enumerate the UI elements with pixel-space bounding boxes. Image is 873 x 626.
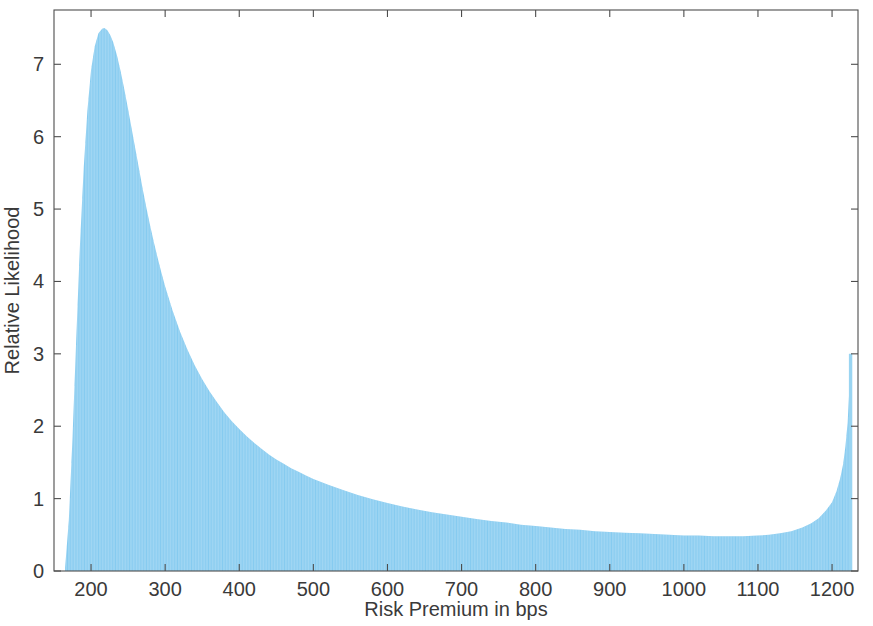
x-tick-label: 200 bbox=[74, 578, 107, 600]
x-tick-label: 300 bbox=[148, 578, 181, 600]
y-tick-label: 6 bbox=[33, 126, 44, 148]
y-tick-label: 7 bbox=[33, 53, 44, 75]
x-tick-label: 400 bbox=[223, 578, 256, 600]
y-tick-label: 4 bbox=[33, 270, 44, 292]
y-tick-label: 5 bbox=[33, 198, 44, 220]
y-tick-label: 1 bbox=[33, 488, 44, 510]
x-tick-label: 800 bbox=[519, 578, 552, 600]
x-tick-label: 900 bbox=[593, 578, 626, 600]
x-tick-label: 700 bbox=[445, 578, 478, 600]
x-tick-label: 1000 bbox=[662, 578, 707, 600]
x-tick-label: 1100 bbox=[736, 578, 779, 600]
x-tick-label: 500 bbox=[297, 578, 330, 600]
y-tick-label: 2 bbox=[33, 415, 44, 437]
histogram-figure: 2003004005006007008009001000110012000123… bbox=[0, 0, 873, 626]
chart-canvas: 2003004005006007008009001000110012000123… bbox=[0, 0, 873, 626]
histogram-series bbox=[65, 28, 850, 571]
y-axis-title: Relative Likelihood bbox=[1, 207, 23, 375]
y-tick-label: 3 bbox=[33, 343, 44, 365]
y-tick-label: 0 bbox=[33, 560, 44, 582]
x-tick-label: 600 bbox=[371, 578, 404, 600]
x-tick-label: 1200 bbox=[810, 578, 855, 600]
x-axis-title: Risk Premium in bps bbox=[364, 598, 547, 620]
